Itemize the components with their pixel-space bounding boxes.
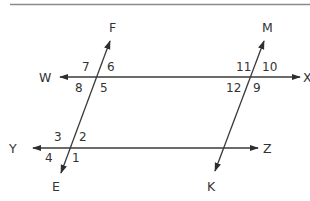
angle-label-1: 1 — [72, 151, 80, 165]
angle-label-2: 2 — [79, 130, 87, 144]
point-label-m: M — [262, 20, 273, 35]
angle-label-10: 10 — [262, 60, 277, 74]
point-label-z: Z — [263, 141, 272, 156]
point-label-k: K — [207, 179, 216, 194]
angle-label-8: 8 — [75, 81, 83, 95]
point-label-e: E — [52, 179, 60, 194]
angle-label-11: 11 — [236, 60, 251, 74]
point-label-w: W — [39, 70, 51, 85]
angle-label-6: 6 — [107, 60, 115, 74]
angle-label-4: 4 — [45, 151, 53, 165]
point-label-x: X — [303, 70, 310, 85]
angle-label-9: 9 — [253, 81, 261, 95]
angle-label-3: 3 — [54, 130, 62, 144]
point-label-y: Y — [8, 141, 17, 156]
angle-label-12: 12 — [226, 81, 241, 95]
angle-label-5: 5 — [100, 81, 108, 95]
angle-label-7: 7 — [82, 60, 90, 74]
geometry-diagram: F E M K W X Y Z 7 6 8 5 11 10 12 9 3 2 4… — [0, 0, 310, 201]
point-label-f: F — [109, 20, 116, 35]
